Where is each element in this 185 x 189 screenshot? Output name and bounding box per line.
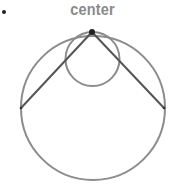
top-point <box>89 29 95 35</box>
small-circle <box>66 32 120 86</box>
large-circle <box>21 36 165 180</box>
circle-diagram <box>0 0 185 189</box>
right-endpoint <box>163 107 166 110</box>
left-endpoint <box>20 107 23 110</box>
